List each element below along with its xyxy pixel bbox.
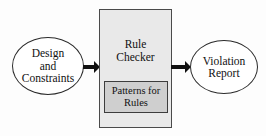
input-node-line-2: and bbox=[40, 60, 57, 72]
arrow-input-to-process-icon bbox=[83, 60, 100, 74]
process-node-line-2: Checker bbox=[100, 51, 171, 64]
input-node-design-and-constraints[interactable]: Design and Constraints bbox=[12, 37, 84, 95]
arrow-shaft bbox=[171, 65, 186, 69]
subsystem-node-line-1: Patterns for bbox=[112, 85, 161, 97]
output-node-line-2: Report bbox=[208, 67, 239, 79]
input-node-line-3: Constraints bbox=[22, 72, 74, 84]
subsystem-node-line-2: Rules bbox=[124, 97, 148, 109]
process-node-title: Rule Checker bbox=[100, 38, 171, 64]
output-node-violation-report[interactable]: Violation Report bbox=[190, 40, 258, 94]
diagram-canvas: Design and Constraints Rule Checker Patt… bbox=[0, 0, 266, 136]
process-node-line-1: Rule bbox=[100, 38, 171, 51]
arrow-process-to-output-icon bbox=[171, 60, 191, 74]
subsystem-node-patterns-for-rules[interactable]: Patterns for Rules bbox=[104, 81, 168, 113]
output-node-line-1: Violation bbox=[203, 55, 246, 67]
input-node-line-1: Design bbox=[32, 47, 65, 59]
